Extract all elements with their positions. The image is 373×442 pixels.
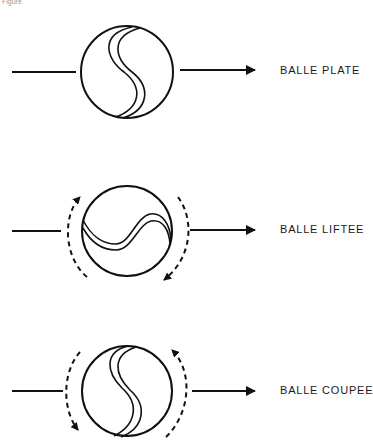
row-flat-ball [12, 26, 255, 118]
spin-arrow-left-down [66, 352, 80, 430]
row-backspin-ball [12, 346, 255, 437]
label-balle-liftee: BALLE LIFTEE [280, 223, 364, 235]
ball-seam [110, 346, 141, 437]
spin-arrow-right-up [166, 350, 186, 437]
ball-seam [109, 27, 145, 118]
ball-seam [83, 214, 171, 250]
spin-arrow-left-up [68, 197, 87, 277]
label-balle-plate: BALLE PLATE [280, 64, 360, 76]
ball-circle [81, 26, 173, 118]
label-balle-coupee: BALLE COUPEE [280, 384, 373, 396]
row-topspin-ball [12, 186, 255, 280]
ball-circle [82, 186, 172, 276]
spin-arrow-right-down [164, 197, 188, 280]
ball-circle [82, 346, 172, 436]
